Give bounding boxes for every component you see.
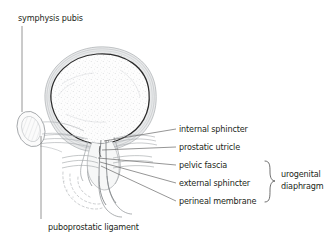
label-perineal-membrane: perineal membrane bbox=[179, 196, 256, 206]
urogenital-diaphragm-brace bbox=[265, 161, 275, 202]
label-urogenital: urogenital bbox=[281, 169, 321, 179]
label-prostatic-utricle: prostatic utricle bbox=[179, 142, 240, 152]
label-internal-sphincter: internal sphincter bbox=[179, 124, 249, 134]
label-external-sphincter: external sphincter bbox=[179, 178, 251, 188]
dash-dots bbox=[64, 181, 74, 198]
label-diaphragm: diaphragm bbox=[281, 181, 324, 191]
label-symphysis-pubis: symphysis pubis bbox=[18, 13, 83, 23]
label-pelvic-fascia: pelvic fascia bbox=[179, 160, 227, 170]
label-puboprostatic-ligament: puboprostatic ligament bbox=[48, 222, 139, 232]
anatomy-drawing: symphysis pubis puboprostatic ligament i… bbox=[0, 0, 335, 246]
anatomy-figure: symphysis pubis puboprostatic ligament i… bbox=[0, 0, 335, 246]
